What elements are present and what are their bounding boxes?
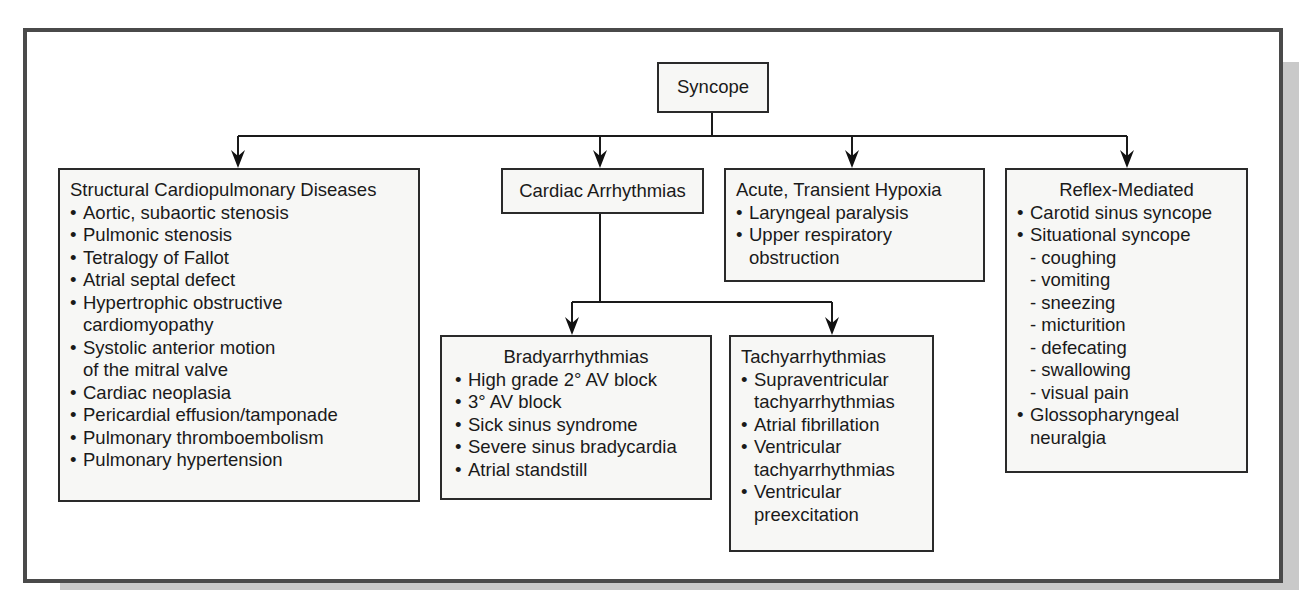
sub-item: - vomiting bbox=[1017, 269, 1246, 292]
list-item: Pericardial effusion/tamponade bbox=[70, 404, 418, 427]
node-cardiac-arrhythmias: Cardiac Arrhythmias bbox=[501, 168, 704, 214]
sub-item: - visual pain bbox=[1017, 382, 1246, 405]
list-item: Pulmonary hypertension bbox=[70, 449, 418, 472]
list-item: Pulmonic stenosis bbox=[70, 224, 418, 247]
node-title: Structural Cardiopulmonary Diseases bbox=[70, 179, 418, 202]
sub-item: - micturition bbox=[1017, 314, 1246, 337]
list-item: Supraventriculartachyarrhythmias bbox=[741, 369, 932, 414]
sub-item: - swallowing bbox=[1017, 359, 1246, 382]
sub-item: - sneezing bbox=[1017, 292, 1246, 315]
list-item: Cardiac neoplasia bbox=[70, 382, 418, 405]
list-item: Sick sinus syndrome bbox=[455, 414, 710, 437]
item-list: Supraventriculartachyarrhythmias Atrial … bbox=[741, 369, 932, 527]
node-title: Cardiac Arrhythmias bbox=[519, 180, 686, 203]
node-title: Reflex-Mediated bbox=[1017, 179, 1246, 202]
list-item: Atrial standstill bbox=[455, 459, 710, 482]
node-syncope-label: Syncope bbox=[677, 76, 749, 99]
list-item: Pulmonary thromboembolism bbox=[70, 427, 418, 450]
list-item: Laryngeal paralysis bbox=[736, 202, 983, 225]
list-item: Tetralogy of Fallot bbox=[70, 247, 418, 270]
list-item: Systolic anterior motionof the mitral va… bbox=[70, 337, 418, 382]
list-item: Aortic, subaortic stenosis bbox=[70, 202, 418, 225]
list-item: Severe sinus bradycardia bbox=[455, 436, 710, 459]
node-tachyarrhythmias: Tachyarrhythmias Supraventriculartachyar… bbox=[729, 335, 934, 552]
list-item: High grade 2° AV block bbox=[455, 369, 710, 392]
list-item: Glossopharyngealneuralgia bbox=[1017, 404, 1246, 449]
node-syncope: Syncope bbox=[657, 62, 769, 113]
node-title: Acute, Transient Hypoxia bbox=[736, 179, 983, 202]
node-title: Tachyarrhythmias bbox=[741, 346, 932, 369]
node-bradyarrhythmias: Bradyarrhythmias High grade 2° AV block … bbox=[440, 335, 712, 500]
list-item: Carotid sinus syncope bbox=[1017, 202, 1246, 225]
item-list: High grade 2° AV block 3° AV block Sick … bbox=[455, 369, 710, 482]
list-item: Ventricularpreexcitation bbox=[741, 481, 932, 526]
node-title: Bradyarrhythmias bbox=[455, 346, 710, 369]
node-structural-cardiopulmonary: Structural Cardiopulmonary Diseases Aort… bbox=[58, 168, 420, 502]
sub-item: - coughing bbox=[1017, 247, 1246, 270]
list-item: Atrial septal defect bbox=[70, 269, 418, 292]
item-list: Carotid sinus syncope Situational syncop… bbox=[1017, 202, 1246, 450]
sub-item: - defecating bbox=[1017, 337, 1246, 360]
item-list: Aortic, subaortic stenosis Pulmonic sten… bbox=[70, 202, 418, 472]
list-item: Ventriculartachyarrhythmias bbox=[741, 436, 932, 481]
list-item: 3° AV block bbox=[455, 391, 710, 414]
node-reflex-mediated: Reflex-Mediated Carotid sinus syncope Si… bbox=[1005, 168, 1248, 473]
node-acute-transient-hypoxia: Acute, Transient Hypoxia Laryngeal paral… bbox=[724, 168, 985, 282]
list-item: Atrial fibrillation bbox=[741, 414, 932, 437]
list-item: Upper respiratoryobstruction bbox=[736, 224, 983, 269]
item-list: Laryngeal paralysis Upper respiratoryobs… bbox=[736, 202, 983, 270]
list-item: Hypertrophic obstructivecardiomyopathy bbox=[70, 292, 418, 337]
list-item: Situational syncope bbox=[1017, 224, 1246, 247]
